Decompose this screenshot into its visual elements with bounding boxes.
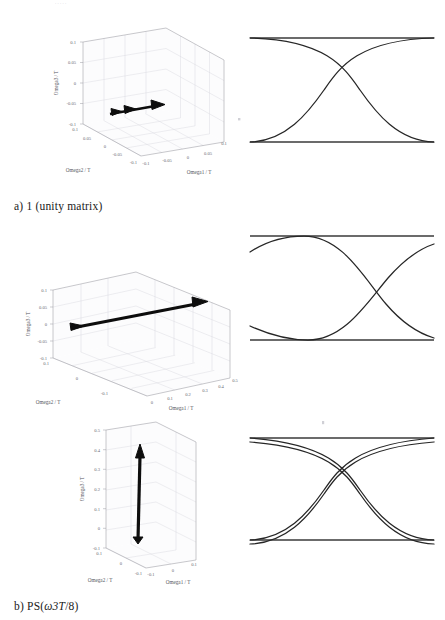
eye-diagram-c: [246, 418, 438, 558]
xtick-a-2: 0: [187, 155, 190, 160]
eye-trace-c-1: [250, 438, 434, 540]
figure-row-b: 0.1 0.05 0 -0.05 -0.1 Omega3 / T 0.1 0 -…: [0, 212, 445, 392]
ytick-a-0: -0.1: [130, 160, 138, 165]
xtick-c-0: -0.1: [147, 572, 155, 577]
ytick-a-2: 0: [104, 144, 107, 149]
eye-diagram-b: [246, 218, 438, 358]
ztick-c-2: 0.1: [94, 507, 100, 512]
xtick-a-4: 0.1: [221, 141, 227, 146]
eye-trace-a-1: [250, 38, 434, 142]
ztick-c-6: 0.5: [94, 428, 100, 433]
ytick-a-4: 0.1: [72, 127, 78, 132]
ytick-c-0: -0.1: [135, 571, 143, 576]
ytick-a-3: 0.05: [83, 136, 92, 141]
top-partial-text: . . . . .: [55, 0, 305, 7]
ytick-b-0: -0.1: [101, 391, 109, 396]
xtick-b-0: 0: [151, 400, 154, 405]
ytick-a-1: -0.05: [112, 152, 122, 157]
ytick-c-1: 0: [120, 561, 123, 566]
eye-trace-c-2: [250, 438, 434, 540]
xaxis-label-a: Omega1 / T: [187, 169, 213, 175]
xaxis-label-c: Omega1 / T: [166, 579, 192, 585]
zaxis-label-a: Omega3 / T: [53, 70, 59, 96]
eye-diagram-a: [246, 20, 438, 160]
zaxis-label-b: Omega3 / T: [25, 311, 31, 337]
ztick-a-1: -0.05: [66, 101, 76, 106]
ztick-b-3: 0.05: [39, 305, 48, 310]
ztick-b-2: 0: [45, 322, 48, 327]
yaxis-label-a: Omega2 / T: [66, 167, 92, 173]
yaxis-label-b: Omega2 / T: [36, 399, 62, 405]
zaxis-label-c: Omega3 / T: [79, 476, 85, 502]
xtick-a-0: -0.1: [142, 161, 150, 166]
ytick-b-1: 0: [76, 376, 79, 381]
figure-row-a: 0.1 0.05 0 -0.05 -0.1 Omega3 / T 0.1 0.0…: [0, 14, 445, 194]
eye-trace-a-2: [250, 38, 434, 142]
yaxis-label-c: Omega2 / T: [88, 577, 114, 583]
ytick-c-2: 0.1: [96, 551, 102, 556]
plot3d-b: 0.1 0.05 0 -0.05 -0.1 Omega3 / T 0.1 0 -…: [18, 212, 240, 387]
ztick-a-4: 0.1: [70, 40, 76, 45]
xtick-a-1: -0.05: [162, 158, 172, 163]
xtick-c-2: 0.1: [191, 562, 197, 567]
plot3d-c: 0.5 0.4 0.3 0.2 0.1 0 -0.1 Omega3 / T 0.…: [18, 412, 240, 587]
figure-panel: . . . . .: [0, 0, 445, 620]
xtick-b-1: 0.1: [167, 396, 173, 401]
ytick-b-2: 0.1: [43, 361, 49, 366]
xtick-b-2: 0.2: [185, 392, 191, 397]
ztick-c-4: 0.3: [94, 467, 100, 472]
xtick-b-5: 0.5: [232, 378, 238, 383]
ztick-c-5: 0.4: [94, 448, 100, 453]
caption-b: b) PS(ω3T/8): [14, 600, 79, 612]
ztick-b-1: -0.05: [37, 339, 47, 344]
ztick-c-3: 0.2: [94, 487, 100, 492]
ztick-b-4: 0.1: [41, 288, 47, 293]
caption-a: a) 1 (unity matrix): [14, 200, 102, 212]
xtick-c-1: 0: [172, 568, 175, 573]
xaxis-label-b: Omega1 / T: [169, 405, 195, 411]
ztick-c-1: 0: [98, 526, 101, 531]
eye-trace-b-1: [250, 236, 434, 338]
eye-trace-c-4: [250, 442, 434, 544]
ztick-a-2: 0: [74, 81, 77, 86]
eye-trace-b-2: [250, 244, 434, 340]
xtick-a-3: 0.05: [204, 151, 213, 156]
ztick-a-3: 0.05: [68, 60, 77, 65]
figure-row-c: 0.5 0.4 0.3 0.2 0.1 0 -0.1 Omega3 / T 0.…: [0, 412, 445, 592]
xtick-b-3: 0.3: [202, 388, 208, 393]
eye-trace-c-3: [250, 442, 434, 544]
plot3d-a: 0.1 0.05 0 -0.05 -0.1 Omega3 / T 0.1 0.0…: [18, 14, 240, 189]
xtick-b-4: 0.4: [218, 384, 224, 389]
